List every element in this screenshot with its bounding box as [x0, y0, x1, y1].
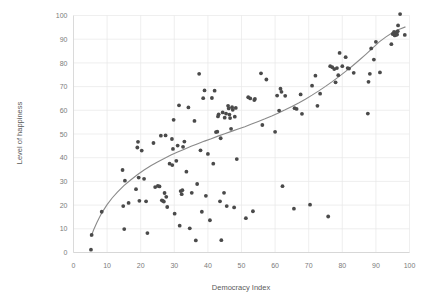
data-point: [228, 113, 232, 117]
data-point: [219, 136, 223, 140]
data-point: [235, 157, 239, 161]
x-tick-label: 10: [103, 262, 111, 269]
data-point: [190, 191, 194, 195]
x-tick-label: 20: [137, 262, 145, 269]
y-tick-label: 70: [60, 83, 68, 90]
x-tick-label: 90: [372, 262, 380, 269]
data-point: [171, 147, 175, 151]
data-point: [347, 67, 351, 71]
plot-canvas: 0102030405060708090100 01020304050607080…: [0, 0, 434, 301]
data-point: [213, 89, 217, 93]
data-point: [172, 118, 176, 122]
data-point: [164, 134, 168, 138]
data-point: [180, 188, 184, 192]
data-point: [369, 47, 373, 51]
data-point: [136, 140, 140, 144]
data-point: [134, 187, 138, 191]
data-point: [259, 71, 263, 75]
data-point: [372, 58, 376, 62]
data-point: [310, 84, 314, 88]
y-tick-label: 20: [60, 202, 68, 209]
data-point: [264, 78, 268, 82]
data-point: [336, 73, 340, 77]
data-point: [206, 152, 210, 156]
data-point: [193, 119, 197, 123]
data-point: [225, 204, 229, 208]
x-tick-label: 70: [305, 262, 313, 269]
data-point: [221, 111, 225, 115]
data-point: [248, 97, 252, 101]
data-point: [144, 199, 148, 203]
data-point: [122, 227, 126, 231]
data-point: [178, 224, 182, 228]
data-point: [219, 238, 223, 242]
data-point: [352, 71, 356, 75]
data-point: [308, 203, 312, 207]
data-point: [292, 207, 296, 211]
data-point: [368, 72, 372, 76]
data-point: [335, 66, 339, 70]
data-point: [316, 104, 320, 108]
data-point: [158, 184, 162, 188]
y-axis-title: Level of happiness: [15, 101, 24, 164]
y-tick-label: 40: [60, 154, 68, 161]
data-point: [173, 212, 177, 216]
data-point: [234, 106, 238, 110]
data-point: [395, 33, 399, 37]
x-axis-tick-labels: 0102030405060708090100: [72, 262, 416, 269]
data-point: [165, 205, 169, 209]
data-point: [260, 123, 264, 127]
scatter-chart: 0102030405060708090100 01020304050607080…: [0, 0, 434, 301]
data-point: [177, 103, 181, 107]
data-point: [152, 141, 156, 145]
x-tick-label: 100: [404, 262, 416, 269]
data-point: [280, 90, 284, 94]
y-axis-tick-labels: 0102030405060708090100: [56, 12, 68, 256]
data-point: [174, 159, 178, 163]
x-tick-label: 80: [338, 262, 346, 269]
y-tick-label: 90: [60, 36, 68, 43]
y-tick-label: 60: [60, 107, 68, 114]
y-tick-label: 50: [60, 131, 68, 138]
data-point: [187, 106, 191, 110]
data-point: [378, 70, 382, 74]
data-point: [210, 96, 214, 100]
data-point: [197, 72, 201, 76]
data-point: [314, 74, 318, 78]
y-tick-label: 100: [56, 12, 68, 19]
y-tick-label: 80: [60, 60, 68, 67]
data-point: [338, 51, 342, 55]
data-point: [215, 130, 219, 134]
data-point: [100, 210, 104, 214]
data-point: [367, 80, 371, 84]
data-point: [211, 162, 215, 166]
data-point: [233, 115, 237, 119]
data-point: [222, 191, 226, 195]
data-point: [218, 199, 222, 203]
data-point: [398, 12, 402, 16]
data-point: [176, 144, 180, 148]
data-point: [283, 94, 287, 98]
data-point: [182, 140, 186, 144]
data-point: [195, 182, 199, 186]
data-point: [181, 145, 185, 149]
x-tick-label: 0: [72, 262, 76, 269]
x-tick-label: 30: [170, 262, 178, 269]
data-point: [163, 191, 167, 195]
data-point: [374, 40, 378, 44]
data-point: [228, 116, 232, 120]
data-point: [403, 33, 407, 37]
data-point: [389, 42, 393, 46]
data-point: [170, 163, 174, 167]
x-tick-label: 50: [238, 262, 246, 269]
data-point: [340, 64, 344, 68]
data-point: [224, 112, 228, 116]
data-point: [188, 226, 192, 230]
data-point: [121, 204, 125, 208]
data-point: [137, 176, 141, 180]
data-point: [89, 248, 93, 252]
data-point: [344, 55, 348, 59]
data-point: [273, 130, 277, 134]
data-point: [244, 216, 248, 220]
data-point: [326, 215, 330, 219]
